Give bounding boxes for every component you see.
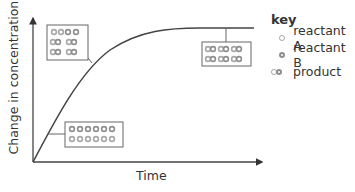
end-reaction-box <box>202 42 251 66</box>
product-icon <box>271 69 287 75</box>
legend-item-reactant-b: reactant B <box>271 46 355 63</box>
x-axis-label: Time <box>136 168 167 183</box>
reactant-a-icon <box>279 35 285 41</box>
reactant-b-icon <box>279 52 285 58</box>
legend: key reactant A reactant B product <box>271 12 355 80</box>
start-reaction-box <box>65 122 123 147</box>
y-axis-label: Change in concentration <box>6 25 21 155</box>
